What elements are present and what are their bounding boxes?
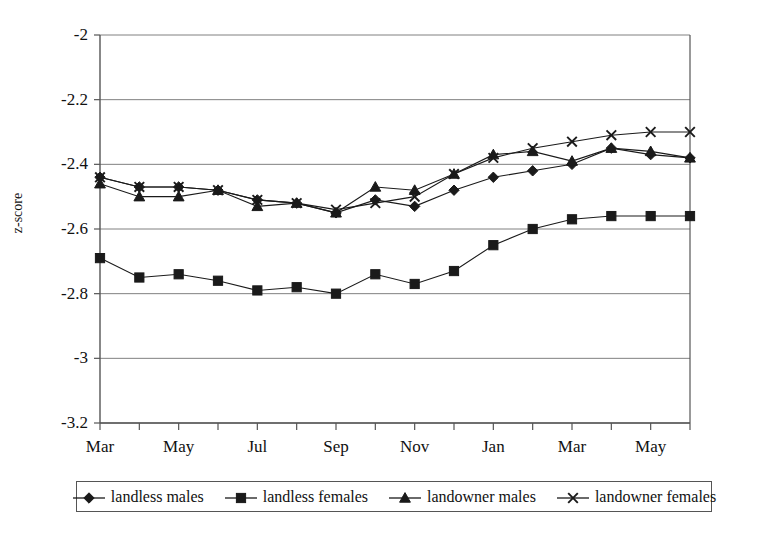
- diamond-marker-icon: [527, 166, 537, 176]
- square-marker-icon: [685, 211, 694, 220]
- square-marker-icon: [489, 241, 498, 250]
- diamond-marker-icon: [449, 185, 459, 195]
- square-marker-icon: [371, 270, 380, 279]
- legend-label: landowner females: [595, 488, 716, 506]
- square-marker-icon: [253, 286, 262, 295]
- square-marker-icon: [213, 276, 222, 285]
- square-marker-icon: [236, 493, 245, 502]
- diamond-marker-icon: [409, 201, 419, 211]
- square-marker-icon: [607, 211, 616, 220]
- square-marker-icon: [528, 224, 537, 233]
- legend-item: landless males: [72, 488, 204, 506]
- series-line: [100, 148, 690, 213]
- square-marker-icon: [331, 289, 340, 298]
- data-series: [95, 143, 696, 217]
- square-marker-icon: [135, 273, 144, 282]
- data-series: [95, 127, 695, 214]
- triangle-marker-icon: [370, 182, 381, 192]
- square-marker-icon: [95, 254, 104, 263]
- diamond-marker-icon: [488, 172, 498, 182]
- data-series: [95, 143, 695, 218]
- square-marker-icon: [567, 215, 576, 224]
- square-marker-icon: [410, 279, 419, 288]
- cross-marker-icon: [556, 491, 590, 503]
- square-marker-icon: [224, 491, 258, 503]
- square-marker-icon: [292, 283, 301, 292]
- legend-label: landowner males: [427, 488, 536, 506]
- square-marker-icon: [174, 270, 183, 279]
- diamond-marker-icon: [72, 491, 106, 503]
- line-chart: z-score -2-2.2-2.4-2.6-2.8-3-3.2 MarMayJ…: [0, 0, 765, 546]
- square-marker-icon: [646, 211, 655, 220]
- series-line: [100, 216, 690, 294]
- triangle-marker-icon: [388, 491, 422, 503]
- chart-legend: landless maleslandless femaleslandowner …: [76, 481, 712, 512]
- legend-item: landless females: [224, 488, 368, 506]
- series-line: [100, 132, 690, 210]
- data-series: [95, 211, 694, 298]
- legend-label: landless females: [263, 488, 368, 506]
- plot-area: [0, 0, 765, 546]
- legend-item: landowner males: [388, 488, 536, 506]
- diamond-marker-icon: [84, 492, 94, 502]
- square-marker-icon: [449, 266, 458, 275]
- legend-item: landowner females: [556, 488, 716, 506]
- triangle-marker-icon: [134, 191, 145, 201]
- legend-label: landless males: [111, 488, 204, 506]
